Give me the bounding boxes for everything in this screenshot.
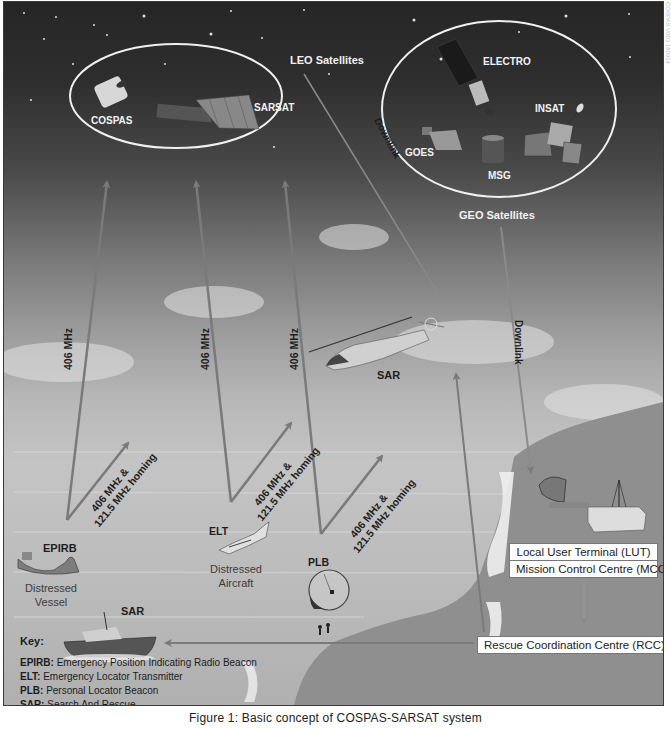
caption-line1: Distressed bbox=[16, 581, 86, 595]
caption-line2: Aircraft bbox=[206, 576, 266, 590]
goes-label: GOES bbox=[405, 147, 434, 158]
cospas-satellite-icon bbox=[93, 75, 129, 109]
plb-label: PLB bbox=[308, 556, 329, 568]
elt-label: ELT bbox=[209, 525, 228, 537]
sar-helicopter-label: SAR bbox=[377, 369, 400, 381]
clouds bbox=[4, 224, 663, 420]
sarsat-satellite-icon bbox=[156, 95, 259, 129]
msg-label: MSG bbox=[488, 170, 511, 181]
geo-satellites-label: GEO Satellites bbox=[459, 209, 535, 221]
key-row-elt: ELT: Emergency Locator Transmitter bbox=[20, 670, 257, 684]
mcc-label: Mission Control Centre (MCC) bbox=[509, 560, 658, 578]
key-text: Emergency Locator Transmitter bbox=[43, 671, 183, 682]
msg-satellite-icon bbox=[482, 135, 504, 163]
electro-label: ELECTRO bbox=[483, 56, 531, 67]
key-text: Search And Rescue bbox=[47, 699, 135, 706]
key-abbr: SAR: bbox=[20, 699, 44, 706]
distressed-aircraft-caption: Distressed Aircraft bbox=[206, 562, 266, 590]
key-abbr: ELT: bbox=[20, 671, 40, 682]
epirb-label: EPIRB bbox=[43, 542, 77, 554]
distressed-vessel-icon bbox=[18, 552, 79, 574]
key-text: Emergency Position Indicating Radio Beac… bbox=[57, 657, 257, 668]
diagram-frame: COSPAS SARSAT LEO Satellites ELECTRO INS… bbox=[3, 1, 664, 706]
geo-downlink-label: Downlink bbox=[513, 320, 524, 364]
uplink-label-plb: 406 MHz bbox=[288, 328, 300, 370]
key-abbr: EPIRB: bbox=[20, 657, 54, 668]
side-reference-code: COSPAS V003 180914 bbox=[663, 2, 671, 102]
sar-boat-label: SAR bbox=[121, 605, 144, 617]
insat-label: INSAT bbox=[535, 103, 564, 114]
electro-satellite-icon bbox=[437, 39, 495, 115]
uplink-label-elt: 406 MHz bbox=[199, 328, 211, 370]
lut-label: Local User Terminal (LUT) bbox=[509, 543, 658, 560]
rcc-label: Rescue Coordination Centre (RCC) bbox=[477, 636, 664, 654]
uplink-label-epirb: 406 MHz bbox=[62, 328, 74, 370]
leo-downlink-arrow bbox=[304, 74, 436, 290]
key-row-sar: SAR: Search And Rescue bbox=[20, 698, 257, 706]
sarsat-label: SARSAT bbox=[254, 102, 294, 113]
legend-key: Key: EPIRB: Emergency Position Indicatin… bbox=[20, 634, 257, 706]
cospas-label: COSPAS bbox=[91, 115, 133, 126]
caption-line1: Distressed bbox=[206, 562, 266, 576]
key-row-plb: PLB: Personal Locator Beacon bbox=[20, 684, 257, 698]
key-title: Key: bbox=[20, 634, 257, 648]
key-row-epirb: EPIRB: Emergency Position Indicating Rad… bbox=[20, 656, 257, 670]
survivors-icon bbox=[318, 623, 330, 635]
caption-line2: Vessel bbox=[16, 595, 86, 609]
key-abbr: PLB: bbox=[20, 685, 43, 696]
leo-satellites-label: LEO Satellites bbox=[290, 54, 364, 66]
key-text: Personal Locator Beacon bbox=[46, 685, 158, 696]
plb-beacon-icon bbox=[309, 570, 349, 610]
distressed-vessel-caption: Distressed Vessel bbox=[16, 581, 86, 609]
figure-caption: Figure 1: Basic concept of COSPAS-SARSAT… bbox=[0, 711, 671, 725]
